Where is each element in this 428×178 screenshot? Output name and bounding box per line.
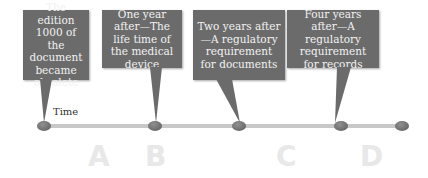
callout-c-text: Two years after—A regulatory requirement…: [197, 20, 281, 70]
callout-a: The edition 1000 of the document became …: [23, 10, 89, 80]
timeline-point-d: [334, 121, 348, 131]
label-d: D: [360, 140, 383, 173]
timeline-axis: [42, 124, 402, 128]
label-c: C: [276, 140, 297, 173]
callout-d-text: Four years after—A regulatory requiremen…: [291, 8, 375, 71]
label-a: A: [88, 140, 110, 173]
callout-b-text: One year after—The life time of the medi…: [106, 8, 178, 71]
callout-a-pointer: [38, 79, 54, 123]
callout-d: Four years after—A regulatory requiremen…: [287, 10, 379, 68]
callout-b-pointer: [148, 67, 164, 123]
timeline-point-end: [395, 121, 409, 131]
time-axis-label: Time: [53, 106, 78, 117]
callout-c-pointer: [216, 79, 242, 123]
timeline-point-c: [232, 121, 246, 131]
timeline-point-a: [37, 121, 51, 131]
callout-c: Two years after—A regulatory requirement…: [193, 10, 285, 80]
timeline-point-b: [148, 121, 162, 131]
callout-d-pointer: [333, 67, 353, 123]
label-b: B: [145, 140, 166, 173]
callout-a-text: The edition 1000 of the document became …: [27, 1, 85, 89]
callout-b: One year after—The life time of the medi…: [102, 10, 182, 68]
